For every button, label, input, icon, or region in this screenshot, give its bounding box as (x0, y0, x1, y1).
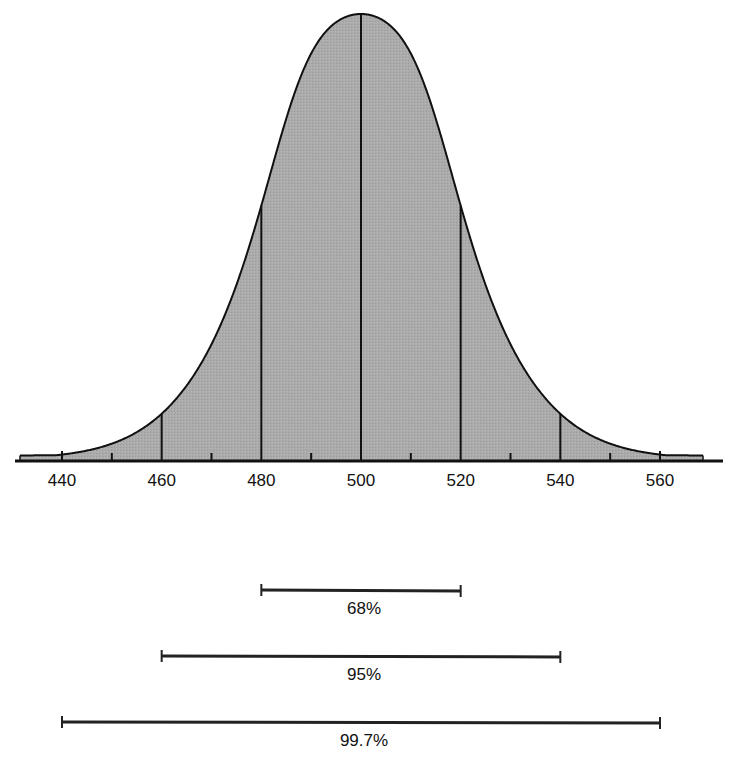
range-95pct: 95% (162, 650, 561, 684)
range-bar (62, 722, 660, 723)
tick-label-540: 540 (546, 471, 574, 490)
range-68pct: 68% (261, 584, 460, 618)
tick-label-440: 440 (48, 471, 76, 490)
normal-distribution-chart: 440460480500520540560 68%95%99.7% (0, 0, 736, 762)
tick-label-560: 560 (646, 471, 674, 490)
range-99-7pct: 99.7% (62, 716, 660, 750)
x-axis-tick-labels: 440460480500520540560 (48, 471, 674, 490)
range-label: 99.7% (340, 731, 388, 750)
tick-label-520: 520 (446, 471, 474, 490)
empirical-rule-ranges: 68%95%99.7% (62, 584, 660, 750)
range-label: 68% (347, 599, 381, 618)
range-label: 95% (347, 665, 381, 684)
tick-label-500: 500 (347, 471, 375, 490)
tick-label-460: 460 (147, 471, 175, 490)
tick-label-480: 480 (247, 471, 275, 490)
range-bar (261, 590, 460, 591)
range-bar (162, 656, 561, 657)
